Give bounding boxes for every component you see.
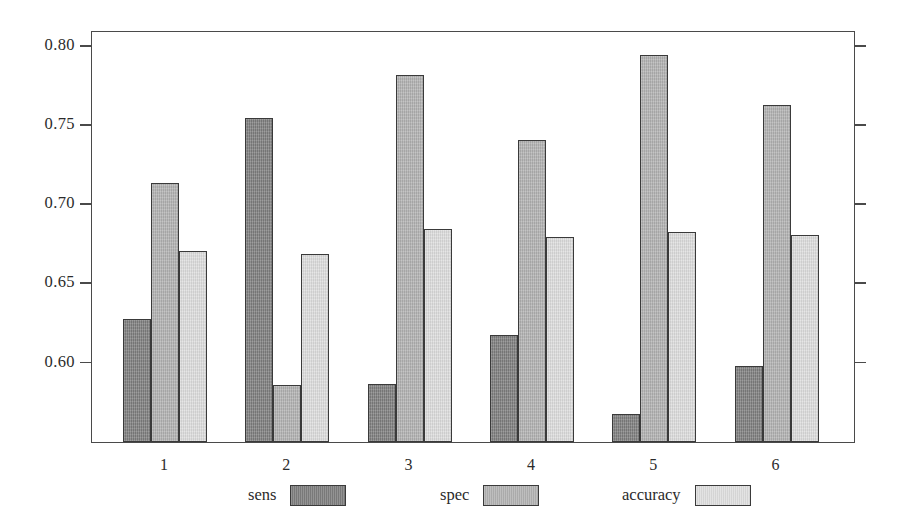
x-tick-label: 3 <box>405 455 413 475</box>
bar-spec-group-5 <box>640 55 668 442</box>
bar-sens-group-6 <box>735 366 763 442</box>
bar-spec-group-3 <box>396 75 424 442</box>
y-tick-mark-right <box>855 203 866 205</box>
y-tick-label: 0.60 <box>45 351 75 373</box>
bar-spec-group-1 <box>151 183 179 442</box>
bars-layer <box>92 32 854 442</box>
plot-area <box>91 31 855 443</box>
bar-sens-group-5 <box>612 414 640 442</box>
y-tick-mark <box>80 282 91 284</box>
legend-entry-spec: spec <box>440 484 539 506</box>
y-tick-mark <box>80 124 91 126</box>
legend-swatch-accuracy <box>695 485 751 506</box>
bar-sens-group-4 <box>490 335 518 442</box>
legend-entry-accuracy: accuracy <box>622 484 751 506</box>
y-tick-label: 0.70 <box>45 192 75 214</box>
bar-spec-group-6 <box>763 105 791 442</box>
x-tick-label: 6 <box>772 455 780 475</box>
y-tick-mark-right <box>855 124 866 126</box>
y-tick-mark <box>80 362 91 364</box>
y-tick-mark-right <box>855 45 866 47</box>
chart-legend: sensspecaccuracy <box>0 484 904 518</box>
x-axis: 123456 <box>0 443 904 483</box>
bar-sens-group-3 <box>368 384 396 442</box>
x-tick-label: 2 <box>282 455 290 475</box>
bar-accuracy-group-2 <box>301 254 329 442</box>
y-tick-label: 0.75 <box>45 113 75 135</box>
bar-spec-group-2 <box>273 385 301 442</box>
x-tick-label: 4 <box>527 455 535 475</box>
legend-label: accuracy <box>622 484 681 506</box>
bar-accuracy-group-1 <box>179 251 207 442</box>
legend-swatch-sens <box>290 485 346 506</box>
x-tick-label: 1 <box>160 455 168 475</box>
bar-chart-figure: 0.800.750.700.650.60 123456 sensspecaccu… <box>0 0 904 530</box>
y-tick-label: 0.65 <box>45 271 75 293</box>
y-tick-mark-right <box>855 282 866 284</box>
bar-sens-group-1 <box>123 319 151 442</box>
legend-entry-sens: sens <box>248 484 346 506</box>
x-tick-label: 5 <box>649 455 657 475</box>
y-tick-mark <box>80 45 91 47</box>
bar-accuracy-group-6 <box>791 235 819 442</box>
y-tick-mark-right <box>855 362 866 364</box>
bar-accuracy-group-5 <box>668 232 696 442</box>
bar-spec-group-4 <box>518 140 546 442</box>
bar-sens-group-2 <box>245 118 273 442</box>
bar-accuracy-group-3 <box>424 229 452 442</box>
y-tick-label: 0.80 <box>45 34 75 56</box>
y-tick-mark <box>80 203 91 205</box>
legend-label: sens <box>248 484 276 506</box>
bar-accuracy-group-4 <box>546 237 574 442</box>
legend-swatch-spec <box>483 485 539 506</box>
legend-label: spec <box>440 484 469 506</box>
